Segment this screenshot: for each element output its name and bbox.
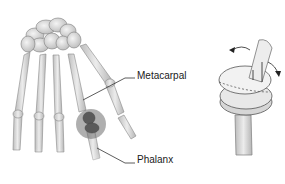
carpal-bones [21,18,81,52]
label-phalanx: Phalanx [137,154,173,165]
label-metacarpal: Metacarpal [137,70,186,81]
phalanx-bones [13,79,136,160]
joint-implant [219,40,281,165]
metacarpal-bones [15,44,112,116]
hand-skeleton [0,18,140,184]
